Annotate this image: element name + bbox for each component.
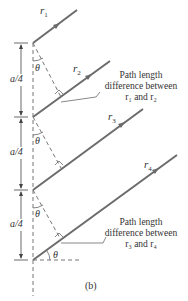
ray-label-r3: r3 — [108, 110, 116, 125]
figure-caption: (b) — [85, 280, 97, 291]
angle-label: θ — [53, 249, 58, 260]
ray-label-r4: r4 — [144, 158, 152, 173]
ray-label-r2: r2 — [73, 62, 81, 77]
angle-label: θ — [35, 62, 40, 73]
spacing-label: a/4 — [10, 218, 23, 229]
spacing-label: a/4 — [10, 146, 23, 157]
angle-label: θ — [35, 135, 40, 146]
annotation-path-diff-r3-r4: Path length difference between r₃ and r₄ — [95, 217, 187, 250]
annotation-path-diff-r1-r2: Path length difference between r₁ and r₂ — [95, 70, 187, 103]
angle-label: θ — [35, 208, 40, 219]
spacing-label: a/4 — [10, 73, 23, 84]
ray-label-r1: r1 — [40, 4, 48, 19]
